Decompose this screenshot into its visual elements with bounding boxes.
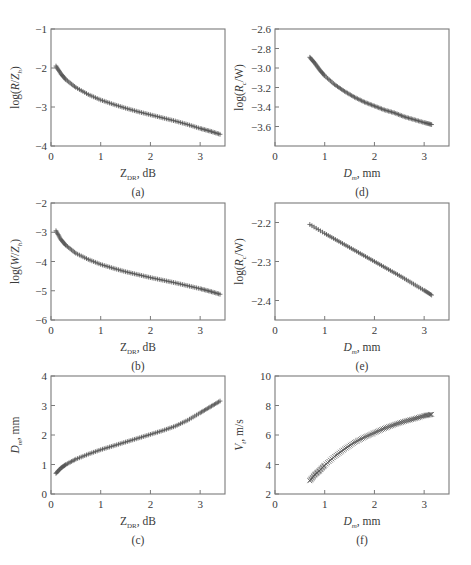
panel-b: 0123−2−3−4−5−6ZDR, dBlog(W/Zh)(b)	[9, 197, 225, 373]
x-tick-label: 2	[372, 324, 378, 336]
x-axis-label: ZDR, dB	[120, 167, 156, 182]
y-tick-label: −2.8	[251, 43, 271, 55]
plot-frame	[51, 203, 225, 320]
y-tick-label: −3.0	[251, 62, 271, 74]
y-tick-label: −3.2	[251, 82, 271, 94]
x-tick-label: 0	[272, 150, 278, 162]
panel-e: 0123−2.2−2.3−2.4Dm, mmlog(Rc/W)(e)	[233, 203, 449, 373]
y-tick-label: −3.4	[251, 101, 271, 113]
x-tick-label: 0	[272, 324, 278, 336]
x-axis-label: ZDR, dB	[120, 515, 156, 530]
panel-c: 012301234ZDR, dBDm, mm(c)	[9, 370, 225, 547]
y-axis-label: log(Rc/W)	[233, 64, 248, 111]
y-tick-label: −2.3	[251, 256, 271, 268]
plot-frame	[275, 29, 449, 146]
x-tick-label: 2	[148, 498, 154, 510]
y-tick-label: −1	[35, 23, 47, 35]
plot-frame	[51, 376, 225, 494]
y-tick-label: 4	[42, 370, 48, 382]
x-tick-label: 1	[322, 324, 328, 336]
x-tick-label: 1	[98, 150, 104, 162]
y-tick-label: −2.2	[251, 217, 271, 229]
panel-caption: (b)	[131, 360, 145, 373]
y-tick-label: 4	[266, 459, 272, 471]
x-tick-label: 1	[98, 498, 104, 510]
figure-six-panel-scatter: 0123−1−2−3−4ZDR, dBlog(R/Zh)(a) 0123−2−3…	[0, 0, 471, 565]
y-axis-label: log(W/Zh)	[9, 239, 24, 284]
y-tick-label: 8	[266, 400, 272, 412]
x-tick-label: 3	[421, 150, 427, 162]
y-axis-label: Vt, m/s	[233, 419, 248, 451]
x-axis-label: ZDR, dB	[120, 341, 156, 356]
panel-a: 0123−1−2−3−4ZDR, dBlog(R/Zh)(a)	[9, 23, 225, 199]
x-tick-label: 1	[98, 324, 104, 336]
x-tick-label: 2	[372, 150, 378, 162]
panel-caption: (d)	[355, 186, 369, 199]
panel-caption: (f)	[356, 534, 368, 547]
y-tick-label: −4	[35, 140, 47, 152]
x-axis-label: Dm, mm	[342, 341, 380, 356]
x-tick-label: 2	[148, 150, 154, 162]
y-tick-label: 2	[266, 488, 272, 500]
x-tick-label: 3	[197, 150, 203, 162]
y-tick-label: −2.6	[251, 23, 271, 35]
y-axis-label: Dm, mm	[9, 416, 24, 454]
x-tick-label: 1	[322, 498, 328, 510]
y-tick-label: −5	[35, 285, 47, 297]
y-tick-label: −3.6	[251, 121, 271, 133]
x-tick-label: 3	[197, 498, 203, 510]
x-axis-label: Dm, mm	[342, 515, 380, 530]
y-tick-label: −2	[35, 62, 47, 74]
x-tick-label: 3	[197, 324, 203, 336]
x-tick-label: 0	[272, 498, 278, 510]
y-tick-label: −4	[35, 256, 47, 268]
x-tick-label: 3	[421, 498, 427, 510]
x-tick-label: 3	[421, 324, 427, 336]
panel-caption: (a)	[132, 186, 145, 199]
data-point	[429, 122, 434, 127]
y-tick-label: 2	[42, 429, 48, 441]
y-tick-label: 0	[42, 488, 48, 500]
x-tick-label: 0	[48, 498, 54, 510]
panel-caption: (c)	[132, 534, 145, 547]
x-tick-label: 1	[322, 150, 328, 162]
y-tick-label: −3	[35, 226, 47, 238]
y-tick-label: 3	[42, 400, 48, 412]
y-tick-label: −2.4	[251, 295, 271, 307]
y-tick-label: −3	[35, 101, 47, 113]
x-tick-label: 2	[148, 324, 154, 336]
y-axis-label: log(R/Zh)	[9, 66, 24, 109]
y-tick-label: −2	[35, 197, 47, 209]
y-tick-label: −6	[35, 314, 47, 326]
y-tick-label: 10	[260, 370, 272, 382]
y-tick-label: 1	[42, 459, 48, 471]
x-tick-label: 0	[48, 324, 54, 336]
x-axis-label: Dm, mm	[342, 167, 380, 182]
x-tick-label: 0	[48, 150, 54, 162]
panel-caption: (e)	[356, 360, 369, 373]
panel-f: 0123246810Dm, mmVt, m/s(f)	[233, 370, 449, 547]
plot-frame	[275, 203, 449, 320]
panel-d: 0123−2.6−2.8−3.0−3.2−3.4−3.6Dm, mmlog(Rc…	[233, 23, 449, 199]
y-tick-label: 6	[266, 429, 272, 441]
y-axis-label: log(Rc/W)	[233, 238, 248, 285]
x-tick-label: 2	[372, 498, 378, 510]
